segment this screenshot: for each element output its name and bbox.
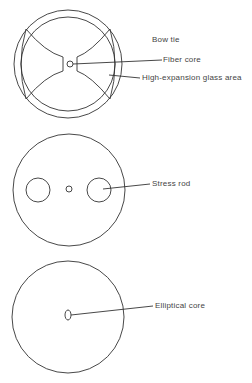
high-expansion-glass-label: High-expansion glass area [142, 73, 242, 82]
bow-tie-fiber [14, 10, 162, 118]
elliptical-core-fiber [12, 261, 153, 373]
elliptical-core-label: Elliptical core [155, 301, 205, 310]
fiber-core-label: Fiber core [163, 55, 201, 64]
stress-rod-label: Stress rod [152, 179, 190, 188]
fiber-diagrams [0, 0, 252, 383]
bow-tie-title: Bow tie [152, 35, 180, 44]
stress-rod-fiber [13, 134, 150, 246]
